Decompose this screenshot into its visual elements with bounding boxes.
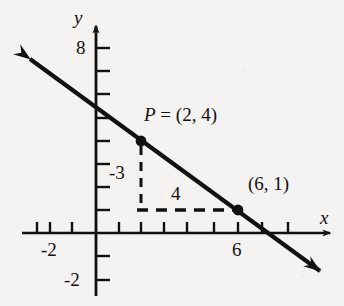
x-tick-label-6: 6 [232, 240, 242, 259]
point-p-marker [136, 136, 147, 147]
coordinate-plane-svg [0, 0, 344, 306]
rise-label: -3 [109, 163, 125, 182]
y-axis-ticks [96, 48, 110, 280]
figure-canvas: x y -2 6 8 -2 P = (2, 4) (6, 1) -3 4 [0, 0, 344, 306]
x-axis-label: x [320, 208, 328, 227]
x-tick-label-neg2: -2 [41, 240, 57, 259]
run-label: 4 [171, 184, 181, 203]
slope-triangle [137, 146, 234, 210]
point-p-name: P [144, 104, 156, 125]
point-p-label: P = (2, 4) [144, 105, 217, 124]
point-p-coords: = (2, 4) [156, 104, 217, 125]
y-axis-label: y [74, 8, 82, 27]
y-tick-label-neg2: -2 [64, 270, 80, 289]
point-q-label: (6, 1) [248, 174, 289, 193]
x-axis-ticks [37, 222, 288, 233]
y-tick-label-8: 8 [76, 38, 86, 57]
graphed-line [30, 59, 320, 271]
x-axis [22, 222, 330, 233]
y-axis [96, 26, 110, 296]
point-q-marker [233, 205, 244, 216]
